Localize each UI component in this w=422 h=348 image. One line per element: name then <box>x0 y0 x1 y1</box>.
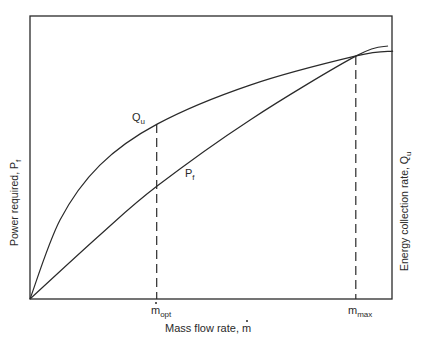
y-axis-left-title: Power required, Pf <box>8 160 23 246</box>
pf-curve-label: Pf <box>185 167 195 182</box>
x-axis-title-symbol: m <box>242 322 251 334</box>
qu-label-base: Q <box>132 111 141 123</box>
y-axis-left-title-text: Power required, P <box>8 162 20 246</box>
mopt-label-base: m <box>151 304 160 316</box>
qu-label-sub: u <box>141 117 145 126</box>
qu-curve-label: Qu <box>132 111 145 126</box>
y-axis-right-title-text: Energy collection rate, Q <box>398 156 410 271</box>
pf-curve <box>30 46 388 299</box>
mopt-label-sub: opt <box>160 310 171 319</box>
y-axis-left-title-sub: f <box>14 160 23 162</box>
qu-curve <box>30 51 393 299</box>
x-axis-title-text: Mass flow rate, <box>165 322 242 334</box>
pf-label-sub: f <box>192 173 194 182</box>
mmax-label-base: m <box>348 304 357 316</box>
chart-canvas <box>0 0 422 348</box>
mmax-label-sub: max <box>357 310 372 319</box>
plot-frame <box>30 16 392 299</box>
x-axis-title: Mass flow rate, m <box>165 322 251 334</box>
y-axis-right-title: Energy collection rate, Qu <box>398 152 413 271</box>
mopt-tick-label: mopt <box>151 304 171 319</box>
mmax-tick-label: mmax <box>348 304 372 319</box>
y-axis-right-title-sub: u <box>404 152 413 156</box>
